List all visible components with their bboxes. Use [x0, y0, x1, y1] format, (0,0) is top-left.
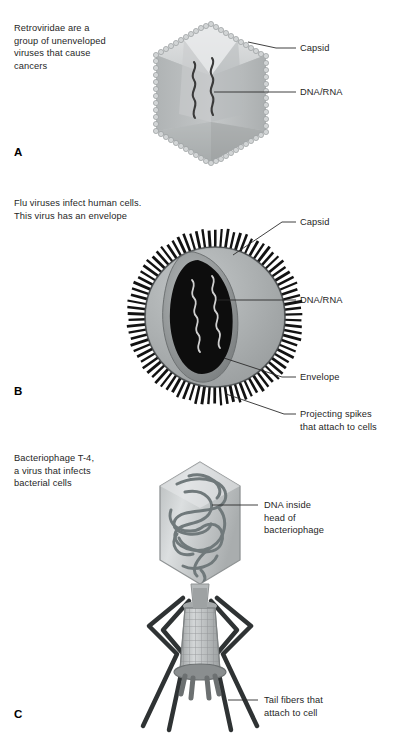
label-dna-head-c: DNA inside head of bacteriophage [264, 499, 384, 537]
label-tail-fibers-c: Tail fibers that attach to cell [264, 694, 384, 719]
panel-c-leaders [0, 0, 396, 735]
